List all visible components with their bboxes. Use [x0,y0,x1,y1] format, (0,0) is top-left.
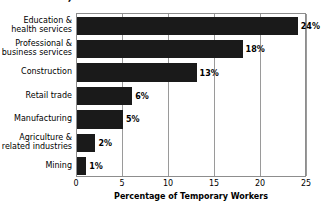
bar-value-label: 24% [301,21,320,30]
bar [77,17,298,35]
bar-value-label: 2% [98,138,112,147]
bar-value-label: 5% [126,115,140,124]
bar-value-label: 1% [89,162,103,171]
chart-title: Industries, 2005 [4,0,107,3]
x-axis-title: Percentage of Temporary Workers [76,192,306,201]
bar-row: 5% [77,110,305,128]
bar-value-label: 6% [135,91,149,100]
category-label: Education & health services [11,16,72,34]
bar [77,40,243,58]
bar [77,110,123,128]
gridline-25 [306,14,307,176]
x-tick-0: 0 [73,179,78,188]
bar-row: 1% [77,157,305,175]
bar [77,87,132,105]
bar [77,157,86,175]
bar-row: 13% [77,63,305,81]
category-label: Construction [21,67,72,76]
plot-area: 24%18%13%6%5%2%1% [76,13,306,177]
category-label: Professional & business services [2,39,72,57]
bar-row: 18% [77,40,305,58]
x-tick-20: 20 [255,179,265,188]
bar [77,134,95,152]
bar-value-label: 18% [246,45,265,54]
category-label: Manufacturing [14,114,72,123]
x-tick-15: 15 [209,179,219,188]
bar-value-label: 13% [200,68,219,77]
bar-row: 2% [77,134,305,152]
x-tick-25: 25 [301,179,311,188]
x-tick-5: 5 [119,179,124,188]
bar-chart-figure: Industries, 2005 24%18%13%6%5%2%1% Educa… [0,0,323,210]
bar-series: 24%18%13%6%5%2%1% [77,14,305,176]
category-label: Agriculture & related industries [2,133,72,151]
x-tick-10: 10 [163,179,173,188]
category-label: Mining [45,161,72,170]
bar [77,63,197,81]
bar-row: 24% [77,17,305,35]
bar-row: 6% [77,87,305,105]
category-label: Retail trade [26,91,72,100]
